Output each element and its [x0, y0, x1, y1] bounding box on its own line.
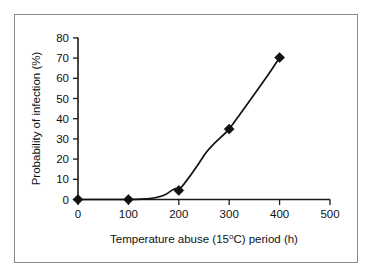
- x-tick-label: 400: [270, 208, 289, 220]
- x-axis-title: Temperature abuse (15oC) period (h): [110, 232, 298, 246]
- chart-plot: 0 10 20 30 40 50 60 70 80 0 100 200 300 …: [0, 0, 375, 278]
- x-tick-label: 100: [119, 208, 138, 220]
- y-tick-label: 30: [56, 133, 69, 145]
- y-tick-label: 80: [56, 32, 69, 44]
- x-tick-label: 200: [169, 208, 188, 220]
- y-tick-label: 60: [56, 72, 69, 84]
- y-tick-label: 70: [56, 52, 69, 64]
- x-tick-labels: 0 100 200 300 400 500: [75, 208, 340, 220]
- y-tick-label: 40: [56, 113, 69, 125]
- data-point-marker: [123, 195, 133, 205]
- data-point-marker: [73, 195, 83, 205]
- data-point-marker: [275, 53, 285, 63]
- x-axis-title-after: C) period (h): [233, 233, 298, 245]
- x-tick-label: 0: [75, 208, 81, 220]
- data-point-markers: [73, 53, 285, 205]
- series-line: [78, 58, 280, 200]
- y-tick-label: 0: [63, 194, 69, 206]
- y-tick-label: 50: [56, 93, 69, 105]
- y-tick-labels: 0 10 20 30 40 50 60 70 80: [56, 32, 69, 206]
- y-tick-label: 10: [56, 173, 69, 185]
- figure: 0 10 20 30 40 50 60 70 80 0 100 200 300 …: [0, 0, 375, 278]
- y-axis-title: Probability of infection (%): [30, 52, 42, 186]
- y-tick-label: 20: [56, 153, 69, 165]
- x-axis-title-before: Temperature abuse (15: [110, 233, 229, 245]
- x-tick-label: 500: [320, 208, 339, 220]
- x-tick-label: 300: [220, 208, 239, 220]
